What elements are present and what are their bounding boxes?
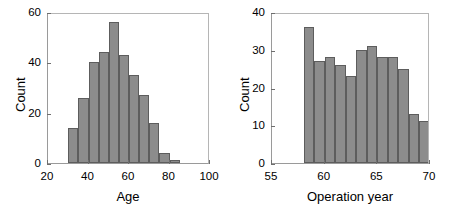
x-axis-tick-label: 60	[317, 171, 330, 183]
y-axis-tick	[47, 13, 51, 14]
histogram-bar	[99, 52, 109, 163]
histogram-bar	[314, 61, 325, 163]
x-axis-tick-label: 70	[423, 171, 436, 183]
x-axis-tick-label: 100	[199, 171, 218, 183]
x-axis-title-age: Age	[116, 190, 139, 203]
y-axis-tick-label: 0	[237, 158, 265, 170]
histogram-bar	[139, 95, 149, 163]
y-axis-tick	[271, 126, 275, 127]
y-axis-tick	[47, 164, 51, 165]
histogram-bar	[325, 57, 336, 163]
histogram-bar	[149, 123, 159, 163]
figure-canvas: 204060801000204060 Age Count 55606570010…	[0, 0, 449, 217]
histogram-bar	[356, 50, 367, 163]
y-axis-tick-label: 40	[13, 58, 41, 70]
y-axis-tick	[47, 114, 51, 115]
histogram-bar	[109, 22, 119, 163]
x-axis-tick	[324, 160, 325, 164]
x-axis-title-operation-year: Operation year	[307, 190, 393, 203]
x-axis-tick-label: 40	[81, 171, 94, 183]
y-axis-tick-label: 0	[13, 158, 41, 170]
y-axis-tick-label: 10	[237, 121, 265, 133]
chart-panel-age: 204060801000204060 Age Count	[0, 0, 225, 217]
histogram-bar	[119, 55, 129, 163]
y-axis-tick	[271, 13, 275, 14]
x-axis-tick-label: 80	[162, 171, 175, 183]
histogram-bar	[367, 46, 378, 163]
x-axis-tick	[88, 160, 89, 164]
histogram-bar	[78, 98, 88, 163]
x-axis-tick-label: 60	[122, 171, 135, 183]
y-axis-title-operation-year: Count	[238, 77, 251, 112]
chart-panel-operation-year: 55606570010203040 Operation year Count	[225, 0, 449, 217]
x-axis-tick-label: 20	[41, 171, 54, 183]
histogram-bar	[419, 121, 428, 163]
x-axis-tick-label: 65	[370, 171, 383, 183]
x-axis-tick-label: 55	[265, 171, 278, 183]
y-axis-tick	[47, 63, 51, 64]
histogram-bar	[377, 57, 388, 163]
bar-series-age	[48, 14, 208, 163]
plot-area-age	[47, 13, 209, 164]
histogram-bar	[335, 65, 346, 163]
x-axis-tick	[128, 160, 129, 164]
y-axis-tick	[271, 51, 275, 52]
histogram-bar	[409, 114, 420, 163]
y-axis-tick-label: 40	[237, 7, 265, 19]
histogram-bar	[398, 69, 409, 163]
bar-series-operation-year	[272, 14, 428, 163]
y-axis-title-age: Count	[14, 77, 27, 112]
x-axis-tick	[376, 160, 377, 164]
histogram-bar	[89, 62, 99, 163]
histogram-bar	[170, 160, 180, 163]
plot-area-operation-year	[271, 13, 429, 164]
y-axis-tick	[271, 89, 275, 90]
histogram-bar	[68, 128, 78, 163]
y-axis-tick-label: 60	[13, 7, 41, 19]
x-axis-tick	[429, 160, 430, 164]
y-axis-tick	[271, 164, 275, 165]
histogram-bar	[388, 57, 399, 163]
histogram-bar	[129, 75, 139, 163]
x-axis-tick	[169, 160, 170, 164]
y-axis-tick-label: 30	[237, 45, 265, 57]
histogram-bar	[304, 27, 315, 163]
x-axis-tick	[209, 160, 210, 164]
histogram-bar	[346, 76, 357, 163]
